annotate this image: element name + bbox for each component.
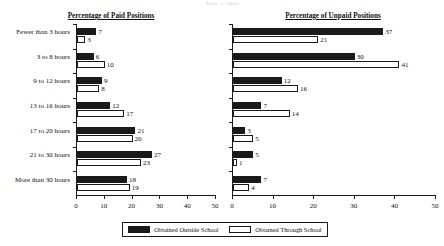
plot-area-paid: Fewer than 3 hours3 to 8 hours9 to 12 ho… xyxy=(0,24,222,212)
legend-label: Obtained Outside School xyxy=(154,226,218,233)
x-axis-tick xyxy=(354,196,355,199)
y-axis-tick xyxy=(73,171,76,172)
bar xyxy=(77,184,130,191)
x-axis-tick-label: 0 xyxy=(230,202,234,210)
x-axis-line xyxy=(232,195,436,196)
bar-value-label: 41 xyxy=(401,61,408,69)
chart-title-paid: Percentage of Paid Positions xyxy=(0,12,222,21)
category-labels-paid: Fewer than 3 hours3 to 8 hours9 to 12 ho… xyxy=(0,24,74,196)
bar-value-label: 3 xyxy=(247,127,251,135)
legend-label: Obtained Through School xyxy=(255,226,321,233)
bar-value-label: 12 xyxy=(284,77,291,85)
top-note: Table 1: 2001 xyxy=(0,0,444,7)
x-axis-tick xyxy=(159,196,160,199)
x-axis-tick xyxy=(273,196,274,199)
y-axis-tick xyxy=(73,73,76,74)
x-axis-tick xyxy=(132,196,133,199)
bar-value-label: 12 xyxy=(112,102,119,110)
bar-value-label: 8 xyxy=(101,85,105,93)
bar xyxy=(233,28,383,35)
bar-value-label: 37 xyxy=(385,28,392,36)
bar xyxy=(77,176,127,183)
bar-value-label: 16 xyxy=(300,85,307,93)
x-axis-tick xyxy=(187,196,188,199)
bar xyxy=(77,28,96,35)
bar-value-label: 3 xyxy=(87,36,91,44)
bar xyxy=(77,53,94,60)
chart-panel-paid: Percentage of Paid Positions Fewer than … xyxy=(0,12,222,212)
plot-area-unpaid: 01020304050372130411216714355174 xyxy=(222,24,444,212)
x-axis-line xyxy=(76,195,216,196)
bar-value-label: 9 xyxy=(104,77,108,85)
bar-value-label: 18 xyxy=(129,176,136,184)
bar-value-label: 23 xyxy=(143,159,150,167)
x-axis-tick-label: 50 xyxy=(432,202,439,210)
bar xyxy=(233,36,318,43)
bar xyxy=(77,102,110,109)
axes-paid: 0102030405073610981217212027231819 xyxy=(76,24,216,196)
x-axis-tick-label: 30 xyxy=(350,202,357,210)
y-axis-tick xyxy=(229,49,232,50)
x-axis-tick xyxy=(435,196,436,199)
bar xyxy=(233,85,298,92)
bar-value-label: 19 xyxy=(132,184,139,192)
x-axis-tick-label: 20 xyxy=(128,202,135,210)
bar-value-label: 10 xyxy=(107,61,114,69)
legend-item-through[interactable]: Obtained Through School xyxy=(229,226,321,233)
category-label: More than 30 hours xyxy=(15,176,70,184)
chart-title-unpaid: Percentage of Unpaid Positions xyxy=(222,12,444,21)
category-label: 13 to 16 hours xyxy=(30,102,70,110)
bar-value-label: 6 xyxy=(96,53,100,61)
bar xyxy=(77,61,105,68)
x-axis-tick-label: 10 xyxy=(100,202,107,210)
bar xyxy=(233,110,290,117)
bar xyxy=(77,36,85,43)
bar-value-label: 7 xyxy=(263,176,267,184)
bar-value-label: 5 xyxy=(255,135,259,143)
bar-value-label: 7 xyxy=(263,102,267,110)
x-axis-tick-label: 50 xyxy=(212,202,219,210)
x-axis-tick xyxy=(313,196,314,199)
legend-swatch-icon xyxy=(229,226,251,233)
x-axis-tick-label: 40 xyxy=(391,202,398,210)
bar-value-label: 21 xyxy=(320,36,327,44)
bar xyxy=(233,61,399,68)
bar-value-label: 27 xyxy=(154,151,161,159)
x-axis-tick-label: 10 xyxy=(269,202,276,210)
bar xyxy=(233,176,261,183)
y-axis-tick xyxy=(73,147,76,148)
x-axis-tick-label: 20 xyxy=(310,202,317,210)
bar xyxy=(233,184,249,191)
bar-value-label: 20 xyxy=(135,135,142,143)
legend-item-outside[interactable]: Obtained Outside School xyxy=(128,226,218,233)
x-axis-tick-label: 0 xyxy=(74,202,78,210)
category-label: Fewer than 3 hours xyxy=(16,28,70,36)
y-axis-tick xyxy=(229,24,232,25)
y-axis-tick xyxy=(73,49,76,50)
y-axis-tick xyxy=(229,147,232,148)
bar-value-label: 5 xyxy=(255,151,259,159)
chart-panel-unpaid: Percentage of Unpaid Positions 010203040… xyxy=(222,12,444,212)
bar-value-label: 4 xyxy=(251,184,255,192)
category-label: 9 to 12 hours xyxy=(33,77,70,85)
bar xyxy=(77,127,135,134)
chart-legend: Obtained Outside SchoolObtained Through … xyxy=(122,222,328,237)
y-axis-tick xyxy=(73,98,76,99)
y-axis-tick xyxy=(73,24,76,25)
x-axis-tick xyxy=(394,196,395,199)
bar xyxy=(77,135,133,142)
bar xyxy=(77,151,152,158)
x-axis-tick xyxy=(104,196,105,199)
x-axis-tick xyxy=(232,196,233,199)
legend-swatch-icon xyxy=(128,226,150,233)
bar xyxy=(233,135,253,142)
y-axis-tick xyxy=(229,122,232,123)
bar-value-label: 21 xyxy=(137,127,144,135)
bar-value-label: 17 xyxy=(126,110,133,118)
bar xyxy=(233,159,237,166)
axes-unpaid: 01020304050372130411216714355174 xyxy=(232,24,436,196)
x-axis-tick xyxy=(215,196,216,199)
bar-value-label: 14 xyxy=(292,110,299,118)
category-label: 21 to 30 hours xyxy=(30,151,70,159)
bar xyxy=(233,127,245,134)
